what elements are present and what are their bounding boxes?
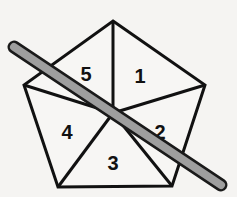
- sector-label-1: 1: [134, 65, 145, 87]
- sector-label-4: 4: [61, 121, 73, 143]
- sector-label-5: 5: [80, 63, 91, 85]
- pentagon-diagram: 1 2 3 4 5: [0, 0, 237, 197]
- sector-label-3: 3: [107, 152, 118, 174]
- figure-canvas: 1 2 3 4 5: [0, 0, 237, 197]
